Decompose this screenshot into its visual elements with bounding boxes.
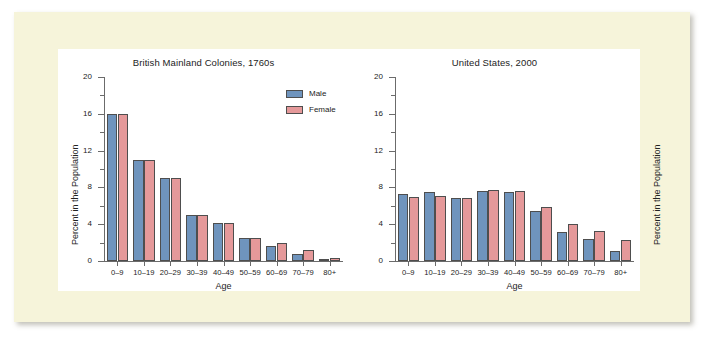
bar-male-50–59 (239, 238, 250, 261)
y-axis-title: Percent in the Population (70, 144, 80, 245)
x-tick (461, 261, 462, 266)
page-root: British Mainland Colonies, 1760s Percent… (0, 0, 712, 339)
bar-male-0–9 (398, 194, 409, 261)
bar-female-30–39 (197, 215, 208, 261)
x-axis-title: Age (395, 281, 634, 291)
bar-male-40–49 (504, 192, 515, 261)
bar-male-10–19 (424, 192, 435, 261)
legend-item-female: Female (286, 103, 336, 116)
bar-female-40–49 (515, 191, 526, 261)
y-tick-label: 0 (349, 256, 383, 265)
legend-label-female: Female (309, 105, 336, 114)
bar-female-80+ (330, 258, 341, 261)
x-tick (303, 261, 304, 266)
bar-female-10–19 (435, 196, 446, 261)
bar-female-10–19 (144, 160, 155, 261)
legend-item-male: Male (286, 87, 336, 100)
bar-male-40–49 (213, 223, 224, 261)
x-tick (170, 261, 171, 266)
bar-female-40–49 (224, 223, 235, 261)
x-axis-title: Age (104, 281, 343, 291)
legend: Male Female (286, 87, 336, 119)
bar-female-70–79 (594, 231, 605, 261)
bar-male-80+ (319, 259, 330, 261)
bar-female-20–29 (462, 198, 473, 261)
x-tick (488, 261, 489, 266)
bar-male-80+ (610, 251, 621, 261)
figure-panel: British Mainland Colonies, 1760s Percent… (58, 49, 640, 291)
x-tick (515, 261, 516, 266)
y-tick-label: 16 (58, 109, 92, 118)
x-tick (594, 261, 595, 266)
y-tick-label: 20 (58, 72, 92, 81)
bar-female-50–59 (250, 238, 261, 261)
x-tick (541, 261, 542, 266)
chart-title: British Mainland Colonies, 1760s (58, 57, 349, 68)
bar-male-70–79 (292, 254, 303, 261)
x-tick (144, 261, 145, 266)
y-axis-title: Percent in the Population (652, 144, 662, 245)
bar-female-0–9 (409, 197, 420, 261)
x-tick (330, 261, 331, 266)
legend-swatch-male-icon (286, 90, 303, 98)
bar-male-0–9 (107, 114, 118, 261)
bar-female-70–79 (303, 250, 314, 261)
y-tick-label: 20 (349, 72, 383, 81)
x-tick-label: 80+ (601, 268, 641, 277)
legend-swatch-female-icon (286, 106, 303, 114)
bar-female-60–69 (568, 224, 579, 261)
y-tick-label: 4 (58, 219, 92, 228)
x-tick-label: 80+ (310, 268, 350, 277)
chart-united-states-2000: United States, 2000 Percent in the Popul… (349, 49, 640, 291)
bar-male-20–29 (160, 178, 171, 261)
bar-male-10–19 (133, 160, 144, 261)
y-tick-label: 8 (349, 182, 383, 191)
x-tick (277, 261, 278, 266)
bar-male-60–69 (557, 232, 568, 261)
x-tick (250, 261, 251, 266)
bar-female-60–69 (277, 243, 288, 261)
chart-title: United States, 2000 (349, 57, 640, 68)
y-tick-label: 12 (58, 146, 92, 155)
bar-male-70–79 (583, 239, 594, 261)
y-tick-label: 4 (349, 219, 383, 228)
y-tick-label: 12 (349, 146, 383, 155)
chart-british-mainland-colonies: British Mainland Colonies, 1760s Percent… (58, 49, 349, 291)
x-tick (224, 261, 225, 266)
x-tick (568, 261, 569, 266)
x-tick (117, 261, 118, 266)
bar-male-60–69 (266, 246, 277, 261)
y-tick-label: 8 (58, 182, 92, 191)
x-tick (621, 261, 622, 266)
x-tick (435, 261, 436, 266)
paper-sheet: British Mainland Colonies, 1760s Percent… (14, 12, 690, 322)
bar-male-20–29 (451, 198, 462, 261)
bar-male-50–59 (530, 211, 541, 261)
bar-female-50–59 (541, 207, 552, 261)
y-tick-label: 0 (58, 256, 92, 265)
legend-label-male: Male (309, 89, 326, 98)
bar-female-0–9 (118, 114, 129, 261)
x-tick (408, 261, 409, 266)
plot-area (395, 77, 634, 261)
x-tick (197, 261, 198, 266)
y-tick-label: 16 (349, 109, 383, 118)
bar-female-30–39 (488, 190, 499, 261)
bar-male-30–39 (186, 215, 197, 261)
bar-male-30–39 (477, 191, 488, 261)
bar-female-80+ (621, 240, 632, 261)
y-tick (98, 261, 104, 262)
bar-female-20–29 (171, 178, 182, 261)
y-tick (389, 261, 395, 262)
